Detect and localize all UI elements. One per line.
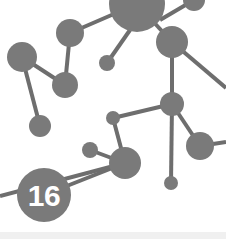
graph-node — [156, 26, 188, 58]
footer-strip — [0, 232, 226, 239]
graph-node — [106, 111, 120, 125]
graph-node — [99, 55, 115, 71]
badge-layer: 16 — [28, 179, 60, 212]
graph-node — [56, 19, 84, 47]
badge-label: 16 — [28, 179, 60, 212]
graph-node — [164, 176, 178, 190]
graph-node — [186, 132, 214, 160]
graph-node — [160, 92, 184, 116]
graph-node — [82, 142, 98, 158]
network-graph: 16 — [0, 0, 226, 239]
graph-node — [109, 147, 141, 179]
graph-node — [7, 42, 37, 72]
graph-node — [52, 72, 78, 98]
illustration-canvas: 16 — [0, 0, 226, 239]
graph-node — [29, 115, 51, 137]
graph-node — [183, 0, 205, 11]
